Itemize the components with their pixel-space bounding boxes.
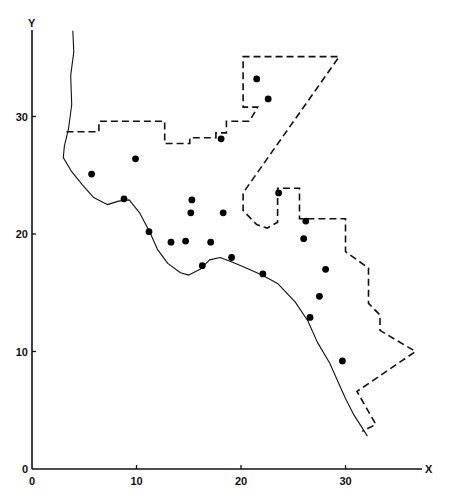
data-point (322, 266, 329, 273)
y-tick-label: 0 (22, 463, 28, 475)
data-point (316, 293, 323, 300)
data-point (307, 314, 314, 321)
data-point (253, 76, 260, 83)
data-point (260, 271, 267, 278)
x-tick-label: 0 (29, 475, 35, 487)
y-ticks: 0102030 (16, 111, 36, 476)
y-tick-label: 20 (16, 228, 28, 240)
x-tick-label: 10 (130, 475, 142, 487)
data-point (146, 228, 153, 235)
data-point (132, 155, 139, 162)
data-point (220, 209, 227, 216)
data-point (199, 262, 206, 269)
data-point (168, 239, 175, 246)
x-axis-label: X (425, 463, 433, 475)
data-point (189, 197, 196, 204)
data-point (339, 358, 346, 365)
map-boundaries (63, 31, 415, 436)
data-point (182, 238, 189, 245)
sample-points (88, 76, 346, 365)
data-point (302, 218, 309, 225)
study-area-boundary (67, 57, 416, 432)
data-point (300, 235, 307, 242)
axes: 0102030 0102030 Y X (16, 17, 433, 487)
data-point (121, 195, 128, 202)
y-axis-label: Y (28, 17, 36, 29)
data-point (207, 239, 214, 246)
y-tick-label: 30 (16, 111, 28, 123)
data-point (265, 96, 272, 103)
data-point (218, 135, 225, 142)
data-point (88, 171, 95, 178)
data-point (228, 254, 235, 261)
x-tick-label: 30 (339, 475, 351, 487)
data-point (275, 190, 282, 197)
map-figure: 0102030 0102030 Y X (0, 0, 450, 499)
data-point (187, 209, 194, 216)
x-tick-label: 20 (235, 475, 247, 487)
y-tick-label: 10 (16, 346, 28, 358)
coastline (63, 31, 367, 436)
